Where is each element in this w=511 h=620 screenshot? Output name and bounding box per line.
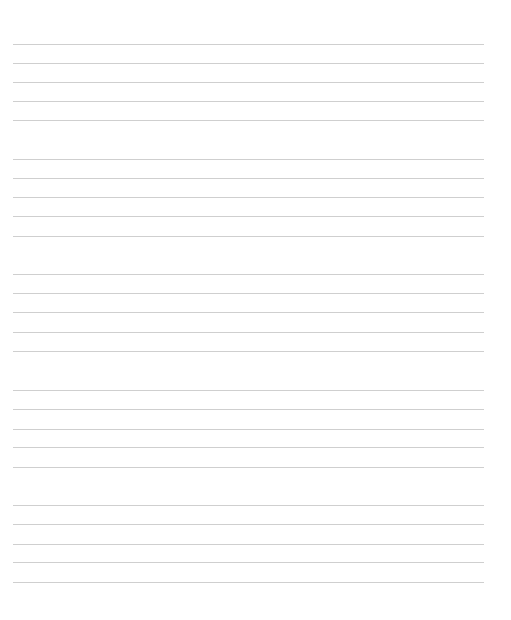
ruled-line (13, 274, 484, 275)
ruled-line (13, 44, 484, 45)
ruled-line (13, 544, 484, 545)
ruled-line (13, 429, 484, 430)
ruled-line (13, 582, 484, 583)
ruled-line (13, 82, 484, 83)
ruled-line (13, 63, 484, 64)
ruled-line (13, 312, 484, 313)
ruled-line (13, 447, 484, 448)
ruled-line (13, 159, 484, 160)
lined-paper-page (0, 0, 511, 620)
ruled-line (13, 236, 484, 237)
ruled-line (13, 332, 484, 333)
ruled-line (13, 409, 484, 410)
ruled-line (13, 293, 484, 294)
ruled-line (13, 178, 484, 179)
ruled-line (13, 101, 484, 102)
ruled-line (13, 505, 484, 506)
ruled-line (13, 120, 484, 121)
ruled-line (13, 197, 484, 198)
ruled-line (13, 467, 484, 468)
ruled-line (13, 351, 484, 352)
ruled-line (13, 390, 484, 391)
ruled-line (13, 216, 484, 217)
ruled-line (13, 562, 484, 563)
ruled-line (13, 524, 484, 525)
